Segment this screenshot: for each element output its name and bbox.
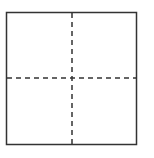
- quadrant-diagram: [0, 0, 154, 158]
